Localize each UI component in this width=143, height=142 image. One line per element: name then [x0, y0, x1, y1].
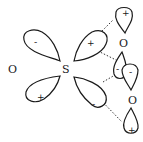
- atom-label-sulfur: S: [62, 63, 70, 76]
- sign-p-middle-left: -: [116, 64, 119, 74]
- sign-d-lower-left: +: [37, 92, 45, 102]
- sign-p-bottom: +: [128, 125, 136, 135]
- d-lobe-upper-left: [24, 30, 60, 61]
- sign-d-upper-left: -: [34, 37, 37, 47]
- sign-d-lower-right: -: [92, 99, 95, 109]
- atom-label-upper-right-oxygen: O: [119, 37, 128, 50]
- sign-p-middle-right: -: [129, 67, 132, 77]
- atom-label-lower-right-oxygen: O: [128, 94, 137, 107]
- orbital-diagram: O S O O - + + - + - - +: [0, 0, 143, 142]
- d-lobe-lower-right: [74, 77, 106, 107]
- atom-label-left-oxygen: O: [8, 63, 17, 76]
- sign-p-top: +: [122, 8, 130, 18]
- sign-d-upper-right: +: [87, 38, 95, 48]
